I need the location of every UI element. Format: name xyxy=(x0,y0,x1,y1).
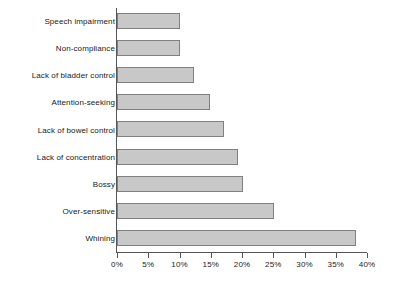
category-label: Bossy xyxy=(0,180,115,190)
x-axis-tick xyxy=(211,253,212,258)
x-axis-tick xyxy=(273,253,274,258)
bar-row xyxy=(117,116,367,143)
bar xyxy=(117,176,243,192)
x-axis-tick-label: 15% xyxy=(194,260,228,270)
bar xyxy=(117,203,274,219)
plot-area xyxy=(117,8,367,252)
x-axis-tick-label: 20% xyxy=(225,260,259,270)
category-label: Attention-seeking xyxy=(0,98,115,108)
x-axis-tick-label: 5% xyxy=(131,260,165,270)
category-label: Lack of bladder control xyxy=(0,71,115,81)
bar xyxy=(117,149,238,165)
category-label: Lack of concentration xyxy=(0,153,115,163)
x-axis-tick-label: 40% xyxy=(350,260,384,270)
bar xyxy=(117,13,180,29)
bar xyxy=(117,230,356,246)
bar xyxy=(117,121,224,137)
bar-row xyxy=(117,8,367,35)
bar-row xyxy=(117,144,367,171)
bar xyxy=(117,67,194,83)
x-axis-tick xyxy=(367,253,368,258)
x-axis-tick-label: 35% xyxy=(319,260,353,270)
bar-row xyxy=(117,62,367,89)
bar-row xyxy=(117,171,367,198)
x-axis-tick xyxy=(336,253,337,258)
category-label: Whining xyxy=(0,234,115,244)
x-axis-tick xyxy=(117,253,118,258)
bar-row xyxy=(117,89,367,116)
x-axis-tick-label: 10% xyxy=(163,260,197,270)
x-axis-tick-label: 30% xyxy=(288,260,322,270)
bar-row xyxy=(117,225,367,252)
bar xyxy=(117,40,180,56)
category-label: Speech impairment xyxy=(0,17,115,27)
x-axis-tick xyxy=(148,253,149,258)
x-axis-tick xyxy=(180,253,181,258)
category-label: Over-sensitive xyxy=(0,207,115,217)
category-label: Lack of bowel control xyxy=(0,126,115,136)
category-label: Non-compliance xyxy=(0,44,115,54)
x-axis-tick xyxy=(242,253,243,258)
x-axis-tick-label: 0% xyxy=(100,260,134,270)
bar-chart: Speech impairmentNon-complianceLack of b… xyxy=(0,0,399,289)
bar xyxy=(117,94,210,110)
x-axis-tick xyxy=(305,253,306,258)
bar-row xyxy=(117,198,367,225)
bar-row xyxy=(117,35,367,62)
x-axis-tick-label: 25% xyxy=(256,260,290,270)
